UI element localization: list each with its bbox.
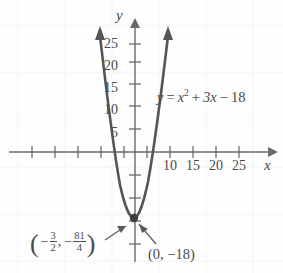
equation-lhs: y	[157, 89, 163, 105]
y-tick-label-5: 5	[111, 126, 118, 140]
equation-minus: −	[220, 89, 228, 105]
parabola-curve	[95, 26, 173, 218]
vertex-comma: ,	[58, 235, 62, 249]
parabola-figure: y x 25 20 15 10 5 10 15 20 25 y=x2+3x−18…	[0, 0, 283, 273]
equation-constant: 18	[231, 89, 246, 105]
y-tick-label-10: 10	[104, 103, 118, 117]
x-tick-label-20: 20	[209, 159, 223, 173]
y-intercept-label: (0, −18)	[148, 247, 195, 262]
vertex-point-marker	[130, 214, 138, 222]
vertex-x-numerator: 3	[50, 230, 57, 241]
equation-exponent: 2	[184, 88, 189, 98]
y-tick-label-15: 15	[104, 81, 118, 95]
curve-equation-label: y=x2+3x−18	[157, 90, 245, 105]
equation-term2: 3x	[203, 89, 217, 105]
curve-right-arrowhead	[163, 26, 173, 40]
x-tick-label-10: 10	[163, 159, 177, 173]
y-tick-label-20: 20	[104, 59, 118, 73]
vertex-x-fraction: 3 2	[50, 230, 57, 253]
equation-plus: +	[192, 89, 200, 105]
vertex-y-sign: −	[64, 235, 72, 249]
vertex-leader-line	[105, 226, 126, 240]
x-tick-label-15: 15	[186, 159, 200, 173]
x-axis-label: x	[264, 158, 271, 173]
y-tick-label-25: 25	[104, 37, 118, 51]
vertex-y-fraction: 81 4	[73, 230, 86, 253]
vertex-x-sign: −	[41, 235, 49, 249]
vertex-x-denominator: 2	[50, 241, 57, 253]
equation-equals: =	[166, 89, 174, 105]
x-axis	[9, 147, 278, 157]
intercept-leader-line	[139, 224, 156, 244]
y-axis-label: y	[116, 8, 123, 23]
vertex-y-denominator: 4	[73, 241, 86, 253]
y-axis	[130, 18, 140, 262]
vertex-y-numerator: 81	[73, 230, 86, 241]
vertex-coordinate-label: ( − 3 2 , − 81 4 )	[30, 230, 95, 253]
x-tick-label-25: 25	[232, 159, 246, 173]
